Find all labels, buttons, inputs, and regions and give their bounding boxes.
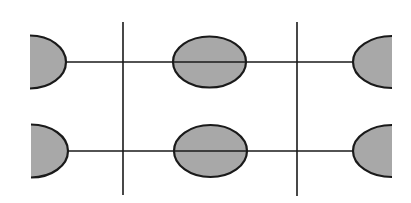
half-ellipse-node-right-fill-1: [353, 36, 392, 88]
shapes-layer: [30, 36, 392, 178]
half-ellipse-node-left-fill-1: [30, 36, 66, 89]
half-ellipse-node-left-fill-2: [31, 125, 68, 178]
lattice-diagram: [0, 0, 411, 203]
half-ellipse-node-right-fill-2: [353, 125, 392, 177]
